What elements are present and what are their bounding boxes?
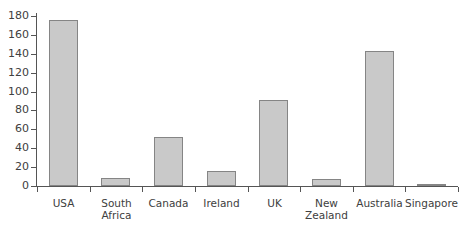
y-axis-tick-label: 160 <box>0 29 29 40</box>
bar <box>101 178 130 186</box>
x-axis-tick <box>405 187 406 192</box>
x-axis-tick <box>142 187 143 192</box>
x-axis-tick <box>458 187 459 192</box>
y-axis-tick-label: 60 <box>0 123 29 134</box>
bar <box>365 51 394 186</box>
x-axis-tick <box>195 187 196 192</box>
y-axis-line <box>36 13 37 187</box>
x-axis-tick <box>248 187 249 192</box>
y-axis-tick-label: 0 <box>0 180 29 191</box>
x-axis-tick <box>37 187 38 192</box>
y-axis-tick <box>31 110 36 111</box>
x-axis-category-label: Canada <box>142 197 195 209</box>
y-axis-tick <box>31 54 36 55</box>
bar <box>312 179 341 186</box>
y-axis-tick <box>31 73 36 74</box>
x-axis-tick <box>353 187 354 192</box>
y-axis-tick <box>31 16 36 17</box>
y-axis-tick <box>31 148 36 149</box>
y-axis-tick-label: 20 <box>0 161 29 172</box>
y-axis-tick-label: 140 <box>0 48 29 59</box>
y-axis-tick-label: 180 <box>0 10 29 21</box>
bar <box>259 100 288 186</box>
y-axis-tick <box>31 129 36 130</box>
y-axis-tick <box>31 186 36 187</box>
bar <box>417 184 446 186</box>
y-axis-tick-label: 120 <box>0 67 29 78</box>
x-axis-category-label: New Zealand <box>300 197 353 221</box>
y-axis-tick <box>31 167 36 168</box>
y-axis-tick-label: 80 <box>0 104 29 115</box>
x-axis-tick <box>300 187 301 192</box>
x-axis-category-label: Australia <box>353 197 406 209</box>
y-axis-tick-label: 40 <box>0 142 29 153</box>
x-axis-category-label: USA <box>37 197 90 209</box>
bar-chart: 020406080100120140160180 USASouth Africa… <box>0 0 465 227</box>
y-axis-tick <box>31 35 36 36</box>
bar <box>207 171 236 186</box>
x-axis-tick <box>90 187 91 192</box>
bar <box>49 20 78 186</box>
x-axis-category-label: Ireland <box>195 197 248 209</box>
y-axis-tick-label: 100 <box>0 86 29 97</box>
x-axis-category-label: UK <box>248 197 301 209</box>
x-axis-category-label: South Africa <box>90 197 143 221</box>
bar <box>154 137 183 186</box>
x-axis-category-label: Singapore <box>405 197 458 209</box>
y-axis-tick <box>31 92 36 93</box>
